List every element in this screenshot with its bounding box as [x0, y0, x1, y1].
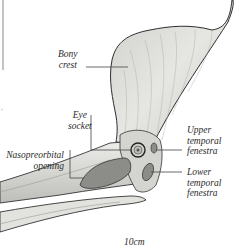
label-lower-temporal-fenestra: Lower temporal fenestra: [187, 167, 221, 199]
upper-temporal-fenestra-shape: [151, 143, 157, 153]
skull-diagram: Bony crest Eye socket Nasopreorbital ope…: [0, 0, 235, 250]
scale-bar-label: 10cm: [124, 237, 145, 248]
label-eye-socket: Eye socket: [68, 110, 92, 131]
margin-mark: [1, 109, 3, 110]
label-bony-crest: Bony crest: [58, 49, 78, 70]
lower-jaw-shape: [0, 196, 146, 232]
label-upper-temporal-fenestra: Upper temporal fenestra: [187, 125, 221, 157]
label-nasopreorbital-opening: Nasopreorbital opening: [2, 150, 64, 171]
